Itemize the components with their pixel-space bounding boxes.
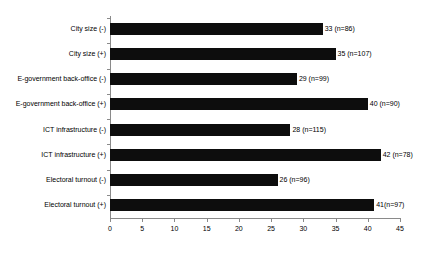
y-axis-category-label: E-government back-office (+) [16, 99, 106, 109]
x-axis-tick-label: 10 [171, 224, 179, 233]
x-axis-tick [174, 218, 175, 222]
bar-row: 41(n=97) [110, 199, 400, 211]
bar [110, 98, 368, 110]
bar-row: 42 (n=78) [110, 149, 400, 161]
x-axis-tick-label: 30 [299, 224, 307, 233]
y-axis-tick [107, 119, 110, 120]
y-axis-category-label: City size (+) [69, 49, 106, 59]
y-axis-tick [107, 170, 110, 171]
bar-value-label: 26 (n=96) [278, 175, 310, 185]
bar [110, 124, 290, 136]
bar [110, 199, 374, 211]
x-axis-tick-label: 45 [396, 224, 404, 233]
x-axis-tick-label: 25 [267, 224, 275, 233]
clipped-caption-text [0, 0, 430, 5]
bar-row: 26 (n=96) [110, 174, 400, 186]
bar-value-label: 28 (n=115) [290, 125, 326, 135]
x-axis-tick [336, 218, 337, 222]
x-axis-tick [239, 218, 240, 222]
bar-value-label: 29 (n=99) [297, 74, 329, 84]
x-axis-tick-label: 5 [140, 224, 144, 233]
bar-row: 33 (n=86) [110, 23, 400, 35]
bar [110, 174, 278, 186]
x-axis-tick [303, 218, 304, 222]
bar-value-label: 33 (n=86) [323, 24, 355, 34]
bar-row: 29 (n=99) [110, 73, 400, 85]
y-axis-tick [107, 195, 110, 196]
bar-row: 40 (n=90) [110, 98, 400, 110]
bar-row: 35 (n=107) [110, 48, 400, 60]
y-axis-category-label: Electoral turnout (-) [46, 175, 106, 185]
x-axis-tick-label: 35 [332, 224, 340, 233]
y-axis-category-label: E-government back-office (-) [17, 74, 106, 84]
x-axis-tick-label: 0 [108, 224, 112, 233]
bar [110, 48, 336, 60]
y-axis-tick [107, 43, 110, 44]
x-axis-tick [142, 218, 143, 222]
bar [110, 23, 323, 35]
y-axis-category-label: City size (-) [71, 24, 106, 34]
x-axis-tick [400, 218, 401, 222]
x-axis-tick [110, 218, 111, 222]
y-axis-category-label: ICT infrastructure (-) [43, 125, 106, 135]
bar-value-label: 42 (n=78) [381, 150, 413, 160]
bar-row: 28 (n=115) [110, 124, 400, 136]
bar-chart-figure: 05101520253035404533 (n=86)35 (n=107)29 … [0, 0, 430, 255]
bar-value-label: 41(n=97) [374, 200, 404, 210]
y-axis-tick [107, 18, 110, 19]
bar-value-label: 40 (n=90) [368, 99, 400, 109]
y-axis-line [110, 16, 111, 218]
bar-value-label: 35 (n=107) [336, 49, 372, 59]
x-axis-tick-label: 15 [203, 224, 211, 233]
x-axis-tick [271, 218, 272, 222]
y-axis-tick [107, 94, 110, 95]
x-axis-tick-label: 20 [235, 224, 243, 233]
plot-area: 05101520253035404533 (n=86)35 (n=107)29 … [110, 16, 400, 218]
x-axis-tick-label: 40 [364, 224, 372, 233]
bar [110, 73, 297, 85]
y-axis-tick [107, 69, 110, 70]
y-axis-category-label: Electoral turnout (+) [44, 200, 106, 210]
x-axis-line [110, 218, 400, 219]
y-axis-category-label: ICT infrastructure (+) [41, 150, 106, 160]
y-axis-tick [107, 144, 110, 145]
x-axis-tick [368, 218, 369, 222]
bar [110, 149, 381, 161]
x-axis-tick [207, 218, 208, 222]
